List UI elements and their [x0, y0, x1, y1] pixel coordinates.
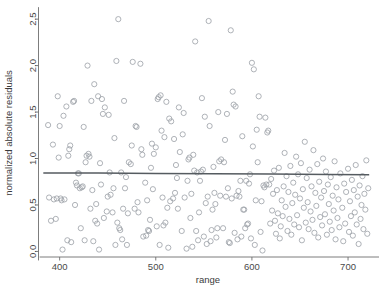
data-point: [121, 98, 126, 103]
data-point: [160, 195, 165, 200]
data-point: [96, 247, 101, 252]
data-point: [89, 98, 94, 103]
data-point: [312, 230, 317, 235]
data-point: [274, 188, 279, 193]
data-point: [176, 105, 181, 110]
data-point: [310, 217, 315, 222]
data-point: [100, 111, 105, 116]
y-tick-label: 1.5: [27, 105, 38, 118]
data-point: [201, 234, 206, 239]
data-point: [165, 205, 170, 210]
data-point: [185, 178, 190, 183]
data-point: [249, 60, 254, 65]
data-point: [252, 242, 257, 247]
x-tick-label: 700: [340, 261, 356, 272]
data-point: [304, 175, 309, 180]
data-point: [309, 184, 314, 189]
data-point: [157, 242, 162, 247]
data-point: [354, 222, 359, 227]
data-point: [159, 128, 164, 133]
data-point: [98, 182, 103, 187]
data-point: [113, 242, 118, 247]
data-point: [202, 114, 207, 119]
x-tick-label: 500: [148, 261, 164, 272]
data-point: [101, 215, 106, 220]
data-point: [350, 233, 355, 238]
data-point: [282, 150, 287, 155]
data-point: [326, 201, 331, 206]
data-point: [114, 58, 119, 63]
data-point: [357, 183, 362, 188]
data-point: [318, 214, 323, 219]
trend-line: [43, 173, 369, 175]
data-point: [337, 225, 342, 230]
data-point: [258, 229, 263, 234]
data-point: [64, 104, 69, 109]
data-point: [68, 143, 73, 148]
data-point: [177, 149, 182, 154]
data-point: [122, 186, 127, 191]
data-point: [119, 170, 124, 175]
data-point: [139, 147, 144, 152]
data-point: [92, 82, 97, 87]
data-point: [206, 18, 211, 23]
data-point: [331, 208, 336, 213]
data-point: [67, 147, 72, 152]
data-point: [216, 109, 221, 114]
data-point: [278, 224, 283, 229]
data-point: [330, 193, 335, 198]
data-point: [66, 153, 71, 158]
data-point: [359, 202, 364, 207]
data-point: [317, 179, 322, 184]
data-point: [352, 210, 357, 215]
y-tick-label: 0.0: [27, 245, 38, 258]
y-tick-label: 0.5: [27, 198, 38, 211]
data-point: [232, 230, 237, 235]
data-point: [144, 233, 149, 238]
data-point: [281, 184, 286, 189]
data-point: [97, 161, 102, 166]
data-point: [254, 127, 259, 132]
data-point: [315, 161, 320, 166]
data-point: [266, 128, 271, 133]
y-tick-label: 1.0: [27, 152, 38, 165]
data-point: [361, 227, 366, 232]
data-point: [162, 135, 167, 140]
data-point: [150, 187, 155, 192]
data-point: [275, 211, 280, 216]
scatter-points: [46, 17, 371, 254]
data-point: [297, 196, 302, 201]
data-point: [324, 232, 329, 237]
data-point: [124, 242, 129, 247]
data-point: [121, 206, 126, 211]
data-point: [307, 167, 312, 172]
data-point: [283, 204, 288, 209]
data-point: [259, 199, 264, 204]
data-point: [323, 169, 328, 174]
data-point: [207, 123, 212, 128]
data-point: [123, 175, 128, 180]
data-point: [288, 163, 293, 168]
data-point: [85, 63, 90, 68]
data-point: [195, 238, 200, 243]
data-point: [306, 227, 311, 232]
data-point: [356, 241, 361, 246]
data-point: [303, 220, 308, 225]
data-point: [210, 207, 215, 212]
data-point: [136, 210, 141, 215]
data-point: [334, 185, 339, 190]
data-point: [344, 189, 349, 194]
data-point: [140, 152, 145, 157]
data-point: [56, 155, 61, 160]
data-point: [255, 160, 260, 165]
data-point: [313, 190, 318, 195]
data-point: [130, 59, 135, 64]
data-point: [291, 180, 296, 185]
x-axis: 400500600700: [40, 257, 379, 272]
data-point: [300, 187, 305, 192]
x-tick-label: 600: [244, 261, 260, 272]
plot-canvas: 0.00.51.01.52.02.5 400500600700 range no…: [0, 0, 379, 289]
data-point: [57, 123, 62, 128]
data-point: [193, 39, 198, 44]
data-point: [213, 201, 218, 206]
